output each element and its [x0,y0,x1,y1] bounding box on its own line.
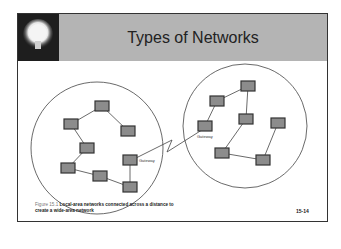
computer-node [239,114,253,124]
gateway-node-right [198,121,212,131]
computer-node [210,96,224,106]
caption-line-2: create a wide-area network [35,208,94,213]
computer-node [95,101,109,111]
gateway-label-left: Gateway [139,158,155,163]
computer-node [64,119,78,129]
figure-caption: Figure 15.1 Local-area networks connecte… [35,202,174,214]
computer-node [215,148,229,158]
computer-node [93,171,107,181]
gateway-node-left [123,155,137,165]
computer-node [256,155,270,165]
gateway-label-right: Gateway [197,134,213,139]
computer-node [61,163,75,173]
computer-node [80,143,94,153]
page-number: 15-14 [296,208,309,214]
computer-node [241,81,255,91]
computer-node [121,126,135,136]
caption-line-1: Local-area networks connected across a d… [60,202,174,207]
computer-node [123,182,137,192]
computer-node [271,118,285,128]
wan-link [136,128,205,158]
figure-number: Figure 15.1 [35,202,58,207]
